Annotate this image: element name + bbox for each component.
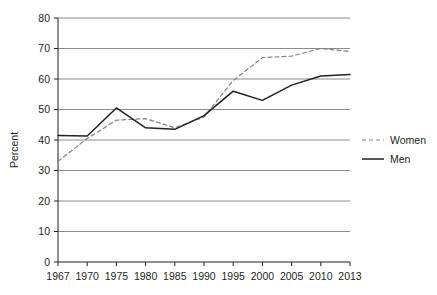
y-tick-label-60: 60 bbox=[38, 73, 50, 85]
chart-svg: 01020304050607080 1967197019751980198519… bbox=[0, 0, 437, 295]
y-tick-label-50: 50 bbox=[38, 103, 50, 115]
x-tick-label-1967: 1967 bbox=[46, 270, 70, 282]
y-tick-label-70: 70 bbox=[38, 42, 50, 54]
x-tick-label-1975: 1975 bbox=[105, 270, 129, 282]
y-axis-tick-labels-group: 01020304050607080 bbox=[38, 12, 50, 268]
y-tick-label-80: 80 bbox=[38, 12, 50, 24]
y-tick-label-40: 40 bbox=[38, 134, 50, 146]
x-tick-label-2013: 2013 bbox=[338, 270, 362, 282]
line-chart: 01020304050607080 1967197019751980198519… bbox=[0, 0, 437, 295]
chart-background bbox=[0, 0, 437, 295]
y-axis-title: Percent bbox=[8, 132, 20, 168]
x-tick-label-2010: 2010 bbox=[309, 270, 333, 282]
x-axis-tick-labels-group: 1967197019751980198519901995200020052010… bbox=[46, 270, 362, 282]
x-tick-label-2005: 2005 bbox=[280, 270, 304, 282]
x-tick-label-1970: 1970 bbox=[76, 270, 100, 282]
x-tick-label-1980: 1980 bbox=[134, 270, 158, 282]
x-tick-label-1985: 1985 bbox=[163, 270, 187, 282]
x-tick-label-1995: 1995 bbox=[222, 270, 246, 282]
y-tick-label-20: 20 bbox=[38, 195, 50, 207]
x-tick-label-1990: 1990 bbox=[192, 270, 216, 282]
legend-label-women: Women bbox=[390, 134, 426, 146]
y-tick-label-10: 10 bbox=[38, 225, 50, 237]
legend-label-men: Men bbox=[390, 153, 411, 165]
x-tick-label-2000: 2000 bbox=[251, 270, 275, 282]
y-tick-label-0: 0 bbox=[44, 256, 50, 268]
y-tick-label-30: 30 bbox=[38, 164, 50, 176]
